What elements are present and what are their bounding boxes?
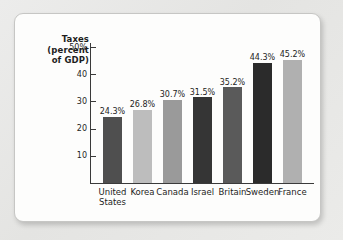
bar-canada: [163, 100, 182, 184]
bar-israel: [193, 97, 212, 183]
y-tick-40: [91, 74, 96, 75]
value-label-britain: 35.2%: [215, 78, 250, 87]
y-tick-label-40: 40: [65, 70, 87, 79]
bar-britain: [223, 87, 242, 183]
y-axis-line: [90, 43, 91, 184]
bar-france: [283, 60, 302, 183]
x-axis-line: [90, 183, 314, 184]
bar-chart: Taxes (percent of GDP) 50% 40 30 20 10 2…: [15, 14, 320, 221]
y-tick-label-10: 10: [65, 151, 87, 160]
y-tick-30: [91, 101, 96, 102]
y-tick-10: [91, 156, 96, 157]
chart-card: Taxes (percent of GDP) 50% 40 30 20 10 2…: [14, 13, 321, 222]
bar-sweden: [253, 63, 272, 184]
value-label-israel: 31.5%: [185, 88, 220, 97]
x-label-france: France: [274, 187, 311, 197]
value-label-korea: 26.8%: [125, 100, 160, 109]
y-axis-title-line-3: of GDP): [21, 55, 89, 66]
y-tick-50: [91, 47, 96, 48]
y-tick-20: [91, 129, 96, 130]
bar-united-states: [103, 117, 122, 183]
y-tick-label-30: 30: [65, 97, 87, 106]
y-tick-label-50: 50%: [65, 43, 87, 52]
y-tick-label-20: 20: [65, 124, 87, 133]
value-label-france: 45.2%: [275, 50, 310, 59]
bar-korea: [133, 110, 152, 183]
